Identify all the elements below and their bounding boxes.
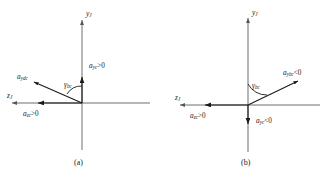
panel-a-z-axis-label: zJ bbox=[7, 92, 12, 100]
panel-a-label-ayc: ayc>0 bbox=[89, 62, 105, 70]
panel-b-group bbox=[180, 18, 320, 152]
panel-b-label-aybc: aybc<0 bbox=[283, 69, 301, 77]
panel-b-label-ayc: ayc<0 bbox=[256, 117, 272, 125]
panel-b-label-gamma: γbc bbox=[252, 82, 260, 90]
panel-a-vector-aydc bbox=[34, 82, 82, 103]
panel-a-y-axis-label: yJ bbox=[86, 10, 92, 18]
panel-b-z-axis-label: zJ bbox=[175, 94, 180, 102]
diagram-svg bbox=[0, 0, 333, 179]
panel-a-label-aydc: aydc bbox=[17, 73, 28, 81]
panel-a-label-gamma: γbc bbox=[64, 81, 72, 89]
panel-b-y-axis-label: yJ bbox=[252, 9, 258, 17]
panel-a-caption: (a) bbox=[74, 158, 83, 167]
figure-container: yJ zJ ayc>0 azc>0 aydc γbc (a) yJ zJ ayc… bbox=[0, 0, 333, 179]
panel-b-label-azc: azc>0 bbox=[190, 112, 206, 120]
panel-a-group bbox=[12, 20, 150, 150]
panel-a-label-azc: azc>0 bbox=[23, 110, 39, 118]
panel-b-caption: (b) bbox=[241, 158, 250, 167]
